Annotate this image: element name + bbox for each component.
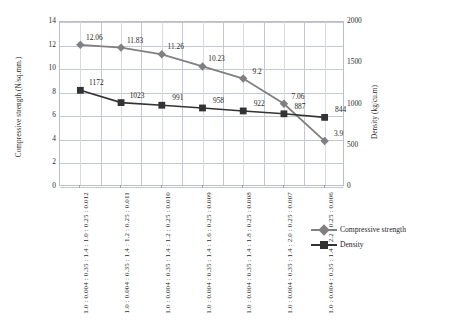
right-tick-label: 0 xyxy=(347,181,369,190)
chart-legend: Compressive strengthDensity xyxy=(311,222,449,252)
data-point-diamond xyxy=(239,74,247,82)
data-point-diamond xyxy=(158,50,166,58)
data-point-label: 7.06 xyxy=(291,91,304,100)
x-tick-mark xyxy=(242,185,243,188)
left-tick-label: 2 xyxy=(40,157,56,166)
x-tick-mark xyxy=(202,185,203,188)
data-point-square xyxy=(240,108,247,115)
right-tick-label: 1500 xyxy=(347,57,369,66)
left-tick-label: 14 xyxy=(40,16,56,25)
data-point-label: 844 xyxy=(335,105,346,114)
right-tick-label: 500 xyxy=(347,140,369,149)
x-tick-mark xyxy=(161,185,162,188)
left-tick-label: 10 xyxy=(40,63,56,72)
left-tick-label: 4 xyxy=(40,134,56,143)
chart-container: Compressive strength (N/sq.mm.) Density … xyxy=(0,0,451,331)
data-point-square xyxy=(199,105,206,112)
left-axis-ticks: 02468101214 xyxy=(38,0,56,331)
legend-marker-diamond-icon xyxy=(311,224,337,235)
data-point-label: 3.9 xyxy=(334,129,343,138)
left-tick-label: 6 xyxy=(40,110,56,119)
data-point-diamond xyxy=(117,43,125,51)
x-tick-mark xyxy=(79,185,80,188)
x-axis-label: 1.0 : 0.004 : 0.35 : 1.4 : 2.0 : 0.25 : … xyxy=(286,192,294,314)
x-axis-label: 1.0 : 0.004 : 0.35 : 1.4 : 2.2 : 0.25 : … xyxy=(327,192,335,314)
legend-item[interactable]: Density xyxy=(311,237,449,252)
data-point-label: 1023 xyxy=(130,90,145,99)
data-point-label: 12.06 xyxy=(86,32,103,41)
left-tick-label: 0 xyxy=(40,181,56,190)
data-point-label: 11.83 xyxy=(127,35,143,44)
data-point-label: 958 xyxy=(213,95,224,104)
right-tick-label: 2000 xyxy=(347,16,369,25)
data-point-label: 1172 xyxy=(89,78,104,87)
data-point-label: 887 xyxy=(294,101,305,110)
data-point-square xyxy=(321,114,328,121)
x-axis-label: 1.0 : 0.004 : 0.35 : 1.4 : 1.6 : 0.25 : … xyxy=(205,192,213,314)
legend-marker-square-icon xyxy=(311,239,337,250)
left-axis-title: Compressive strength (N/sq.mm.) xyxy=(15,48,23,166)
x-axis-label: 1.0 : 0.004 : 0.35 : 1.4 : 1.8 : 0.25 : … xyxy=(245,192,253,314)
data-point-square xyxy=(281,110,288,117)
x-axis-labels: 1.0 : 0.004 : 0.35 : 1.4 : 1.0 : 0.25 : … xyxy=(59,188,344,328)
right-tick-label: 1000 xyxy=(347,99,369,108)
data-point-label: 10.23 xyxy=(208,54,225,63)
left-tick-label: 8 xyxy=(40,87,56,96)
right-axis-ticks: 0500100015002000 xyxy=(347,0,371,331)
data-point-square xyxy=(118,99,125,106)
data-point-square xyxy=(77,87,84,94)
x-tick-mark xyxy=(324,185,325,188)
legend-marker-shape xyxy=(318,224,329,235)
data-point-label: 991 xyxy=(172,93,183,102)
data-point-square xyxy=(158,102,165,109)
series-line xyxy=(80,45,324,141)
left-tick-label: 12 xyxy=(40,40,56,49)
legend-label: Density xyxy=(337,240,364,249)
x-axis-label: 1.0 : 0.004 : 0.35 : 1.4 : 1.2 : 0.25 : … xyxy=(123,192,131,313)
x-axis-label: 1.0 : 0.004 : 0.35 : 1.4 : 1.0 : 0.25 : … xyxy=(82,192,90,314)
data-point-label: 9.2 xyxy=(253,66,262,75)
legend-label: Compressive strength xyxy=(337,225,406,234)
plot-area: 12.0611.8311.2610.239.27.063.91172102399… xyxy=(59,21,344,186)
legend-item[interactable]: Compressive strength xyxy=(311,222,449,237)
x-axis-label: 1.0 : 0.004 : 0.35 : 1.4 : 1.2 : 0.25 : … xyxy=(164,192,172,314)
x-tick-mark xyxy=(120,185,121,188)
data-point-diamond xyxy=(76,41,84,49)
data-point-label: 922 xyxy=(254,98,265,107)
data-point-diamond xyxy=(198,62,206,70)
right-axis-title: Density (kg/cu.m) xyxy=(371,53,379,171)
legend-marker-shape xyxy=(320,241,328,249)
data-point-label: 11.26 xyxy=(168,42,184,51)
x-tick-mark xyxy=(283,185,284,188)
